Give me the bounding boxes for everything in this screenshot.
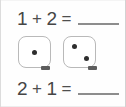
die-two-pip-lower-right — [84, 56, 89, 61]
dice-illustration — [18, 36, 110, 70]
top-first-addend: 1 — [17, 9, 28, 28]
die-two-shadow — [88, 66, 97, 70]
equation-row-top: 1 + 2 = — [17, 9, 119, 28]
equation-row-bottom: 2 + 1 = — [17, 79, 119, 98]
top-edge-divider — [1, 0, 126, 1]
bottom-second-addend: 1 — [47, 79, 58, 98]
bottom-first-addend: 2 — [17, 79, 28, 98]
bottom-answer-blank[interactable] — [78, 93, 119, 95]
top-second-addend: 2 — [47, 9, 58, 28]
math-worksheet-card: 1 + 2 = 2 + 1 = — [0, 0, 126, 107]
top-plus-operator: + — [32, 10, 42, 27]
die-two-pip-upper-left — [72, 44, 77, 49]
bottom-plus-operator: + — [32, 80, 42, 97]
die-two — [63, 36, 96, 68]
die-one — [18, 36, 51, 68]
bottom-equals-sign: = — [62, 80, 72, 97]
die-one-shadow — [41, 66, 50, 70]
top-answer-blank[interactable] — [78, 23, 119, 25]
bottom-edge-divider — [1, 106, 126, 107]
die-one-pip-center — [32, 50, 37, 55]
top-equals-sign: = — [62, 10, 72, 27]
